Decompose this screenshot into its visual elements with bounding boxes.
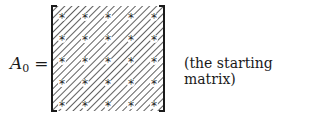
matrix-entry: * [105,99,111,112]
equals-sign: = [34,53,48,73]
matrix-entry: * [59,55,65,69]
matrix-entry: * [151,33,157,47]
matrix-entry: * [128,33,134,47]
label-subscript: 0 [22,62,29,75]
matrix-entry: * [82,77,88,91]
matrix-entry: * [128,77,134,91]
matrix-entry: * [59,33,65,47]
matrix-entry: * [128,11,134,25]
matrix-entry: * [82,55,88,69]
matrix-entry: * [128,99,134,112]
matrix-entry: * [59,99,65,112]
matrix-entry: * [151,55,157,69]
label-symbol: A [10,53,22,73]
matrix-entry: * [59,11,65,25]
matrix-entry: * [82,99,88,112]
matrix-entry: * [105,55,111,69]
matrix-label: A0= [10,53,49,75]
matrix-entry: * [151,99,157,112]
matrix-entry: * [105,33,111,47]
matrix-entry: * [151,77,157,91]
matrix-entry: * [105,77,111,91]
hatched-matrix: ************************* [51,5,165,112]
matrix-entry: * [151,11,157,25]
matrix-entry: * [82,33,88,47]
matrix-entry: * [128,55,134,69]
matrix-entry: * [59,77,65,91]
matrix-entry: * [105,11,111,25]
matrix-caption: (the starting matrix) [184,55,318,87]
matrix-entry: * [82,11,88,25]
matrix-graphic: ************************* [51,5,165,112]
